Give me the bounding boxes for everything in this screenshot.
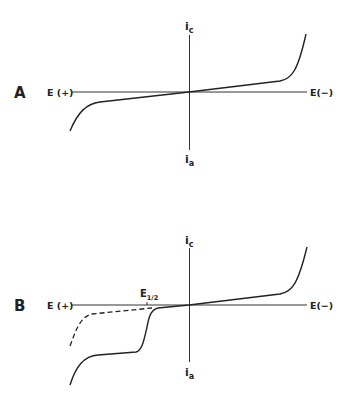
panel-b-anodic-wave-curve xyxy=(70,247,307,385)
panel-a-e-negative-label: E(−) xyxy=(310,87,333,98)
voltammogram-figure: A E (+) E(−) ic ia B E (+) E(−) E1/2 ic … xyxy=(0,0,346,395)
panel-a-background-curve xyxy=(70,34,306,131)
panel-a-ia-label: ia xyxy=(185,153,194,168)
panel-b-e-negative-label: E(−) xyxy=(310,300,333,311)
panel-b-ia-label: ia xyxy=(185,366,194,381)
panel-b-e-positive-label: E (+) xyxy=(47,300,73,311)
panel-a-label: A xyxy=(14,84,26,102)
panel-b-background-dashed-curve xyxy=(70,308,152,346)
half-wave-potential-label: E1/2 xyxy=(140,288,158,302)
panel-a-e-positive-label: E (+) xyxy=(47,87,73,98)
panel-a: A E (+) E(−) ic ia xyxy=(14,20,333,168)
panel-b: B E (+) E(−) E1/2 ic ia xyxy=(14,234,333,385)
panel-a-ic-label: ic xyxy=(185,20,194,35)
panel-b-label: B xyxy=(14,297,25,315)
panel-b-ic-label: ic xyxy=(185,234,194,249)
